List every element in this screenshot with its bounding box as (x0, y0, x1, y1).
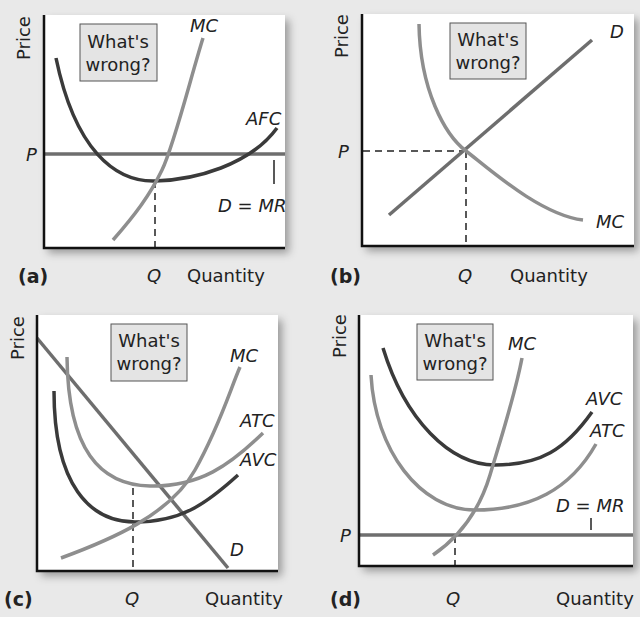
mc-label: MC (190, 15, 219, 36)
x-tick-q: Q (458, 265, 472, 286)
d-mr-label: D = MR (218, 195, 286, 216)
avc-label: AVC (585, 388, 623, 409)
y-axis-label: Price (7, 316, 28, 360)
x-axis-label: Quantity (510, 265, 588, 286)
mc-label: MC (230, 345, 259, 366)
d-label: D (230, 539, 244, 560)
x-axis-label: Quantity (205, 588, 283, 609)
panel-a: What's wrong? Price P MC AFC D = MR Q Qu… (0, 0, 320, 300)
panel-tag: (d) (330, 588, 361, 610)
x-tick-q: Q (446, 588, 460, 609)
y-tick-p: P (340, 525, 351, 546)
callout-box: What's wrong? (80, 24, 157, 81)
callout-line1: What's (457, 29, 519, 50)
callout-line2: wrong? (422, 353, 487, 374)
atc-label: ATC (239, 410, 275, 431)
x-axis-label: Quantity (556, 588, 634, 609)
mc-label: MC (596, 211, 625, 232)
panel-tag: (b) (330, 265, 361, 287)
callout-line2: wrong? (116, 353, 181, 374)
y-axis-label: Price (331, 14, 352, 58)
callout-line2: wrong? (85, 54, 150, 75)
x-tick-q: Q (147, 265, 161, 286)
x-tick-q: Q (125, 588, 139, 609)
y-axis-label: Price (13, 16, 34, 60)
callout-box: What's wrong? (111, 324, 187, 381)
panel-c: What's wrong? Price MC ATC AVC D Q Quant… (0, 300, 320, 617)
callout-line1: What's (424, 330, 486, 351)
callout-line1: What's (87, 31, 149, 52)
callout-box: What's wrong? (417, 324, 493, 380)
panel-tag: (a) (18, 265, 48, 287)
y-tick-p: P (26, 144, 37, 165)
d-mr-label: D = MR (556, 495, 624, 516)
panel-b: What's wrong? Price P D MC Q Quantity (b… (320, 0, 640, 300)
afc-label: AFC (245, 108, 282, 129)
mc-label: MC (508, 333, 537, 354)
y-axis-label: Price (329, 314, 350, 358)
callout-line2: wrong? (455, 52, 520, 73)
x-axis-label: Quantity (187, 265, 265, 286)
panel-tag: (c) (4, 588, 33, 610)
callout-line1: What's (118, 330, 180, 351)
callout-box: What's wrong? (450, 23, 526, 79)
d-label: D (610, 21, 624, 42)
panel-d: What's wrong? Price P MC AVC ATC D = MR … (320, 300, 640, 617)
y-tick-p: P (338, 141, 349, 162)
avc-label: AVC (239, 449, 277, 470)
atc-label: ATC (589, 420, 625, 441)
